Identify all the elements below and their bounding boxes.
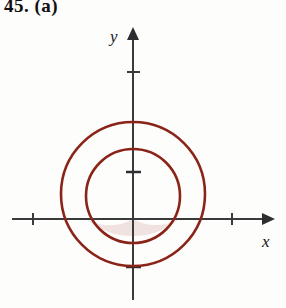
y-axis-arrowhead xyxy=(127,27,139,40)
y-axis-label: y xyxy=(108,27,118,46)
x-axis-arrowhead xyxy=(262,213,275,225)
x-axis-label: x xyxy=(261,232,270,251)
figure-container: 45. (a) y x xyxy=(0,0,286,308)
axes-group xyxy=(12,27,275,300)
polar-plot: y x xyxy=(0,0,286,308)
